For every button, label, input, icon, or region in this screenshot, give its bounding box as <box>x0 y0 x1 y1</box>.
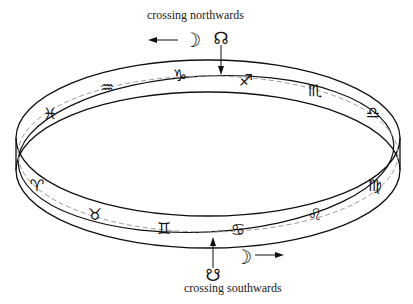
gemini-icon: ♊ <box>157 221 171 237</box>
label-crossing-southwards: crossing southwards <box>184 281 282 296</box>
scorpio-icon: ♏ <box>308 83 322 99</box>
aries-icon: ♈ <box>30 178 44 194</box>
virgo-icon: ♍ <box>368 178 382 194</box>
taurus-icon: ♉ <box>88 207 102 223</box>
band-lower-edge <box>16 92 400 248</box>
sagittarius-icon: ♐ <box>239 73 253 89</box>
leo-icon: ♌ <box>308 207 322 223</box>
pisces-icon: ♓ <box>43 106 57 122</box>
ascending-node-icon: ☊ <box>213 30 228 47</box>
north-node-arrowhead <box>218 66 224 75</box>
ecliptic-diagram: crossing northwards ☽ ☊ ☋ ☽ crossing sou… <box>0 0 413 304</box>
moon-south-icon: ☽ <box>234 247 252 267</box>
north-direction-arrowhead <box>148 37 157 43</box>
label-crossing-northwards: crossing northwards <box>147 8 244 23</box>
south-node-arrowhead <box>210 237 216 246</box>
moon-north-icon: ☽ <box>183 30 201 50</box>
band-drawing <box>0 0 413 304</box>
aquarius-icon: ♒ <box>100 80 114 96</box>
ecliptic-centerline <box>18 76 398 232</box>
cancer-icon: ♋ <box>231 222 245 238</box>
capricorn-icon: ♑ <box>173 68 187 84</box>
south-direction-arrowhead <box>275 252 284 258</box>
band-upper-edge <box>16 60 400 216</box>
libra-icon: ♎ <box>366 105 380 121</box>
